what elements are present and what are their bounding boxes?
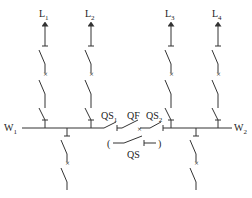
breaker-x-icon: × (65, 159, 70, 166)
bus-disconnector-blade (85, 108, 91, 120)
feeder-l4: L4 × (212, 8, 222, 128)
busbar-w2: W2 (167, 122, 247, 136)
disconnector-blade (61, 140, 67, 154)
electrical-diagram: L1 × L2 × L3 × (0, 0, 252, 198)
breaker-blade (39, 80, 45, 94)
qs2-blade (150, 122, 161, 128)
breaker-blade (190, 168, 196, 182)
qs1-blade (104, 122, 116, 128)
busbar-w1: W1 (4, 122, 104, 136)
breaker-blade (85, 80, 91, 94)
lower-branch-w2: × (190, 128, 199, 190)
qf-blade (122, 120, 138, 128)
disconnector-blade (39, 50, 45, 64)
breaker-x-icon: × (43, 70, 48, 77)
disconnector-blade (212, 50, 218, 64)
bus-disconnector-blade (165, 108, 171, 120)
bypass-close-paren: ) (158, 138, 161, 150)
label-qf: QF (127, 110, 140, 121)
feeder-label-l4: L4 (212, 8, 222, 22)
disconnector-blade (85, 50, 91, 64)
feeder-l1: L1 × (39, 8, 49, 128)
bypass-blade (124, 136, 142, 143)
busbar-label-w1: W1 (4, 122, 17, 136)
breaker-blade (61, 168, 67, 182)
feeder-label-l2: L2 (85, 8, 95, 22)
lower-branch-w1: × (61, 128, 70, 190)
feeder-label-l1: L1 (39, 8, 49, 22)
bus-disconnector-blade (212, 108, 218, 120)
bypass-disconnector: ( ) QS (107, 136, 161, 160)
breaker-blade (212, 80, 218, 94)
breaker-x-icon: × (169, 70, 174, 77)
breaker-x-icon: × (194, 159, 199, 166)
breaker-x-icon: × (89, 70, 94, 77)
bus-disconnector-blade (39, 108, 45, 120)
feeder-label-l3: L3 (165, 8, 175, 22)
busbar-label-w2: W2 (234, 122, 247, 136)
label-qs-bypass: QS (127, 149, 140, 160)
feeder-l2: L2 × (85, 8, 95, 128)
disconnector-blade (190, 140, 196, 154)
bypass-open-paren: ( (107, 138, 111, 150)
breaker-x-icon: × (216, 70, 221, 77)
disconnector-blade (165, 50, 171, 64)
breaker-blade (165, 80, 171, 94)
feeder-l3: L3 × (165, 8, 175, 128)
sectionalizer: QS1 QF QS2 × (101, 110, 167, 132)
